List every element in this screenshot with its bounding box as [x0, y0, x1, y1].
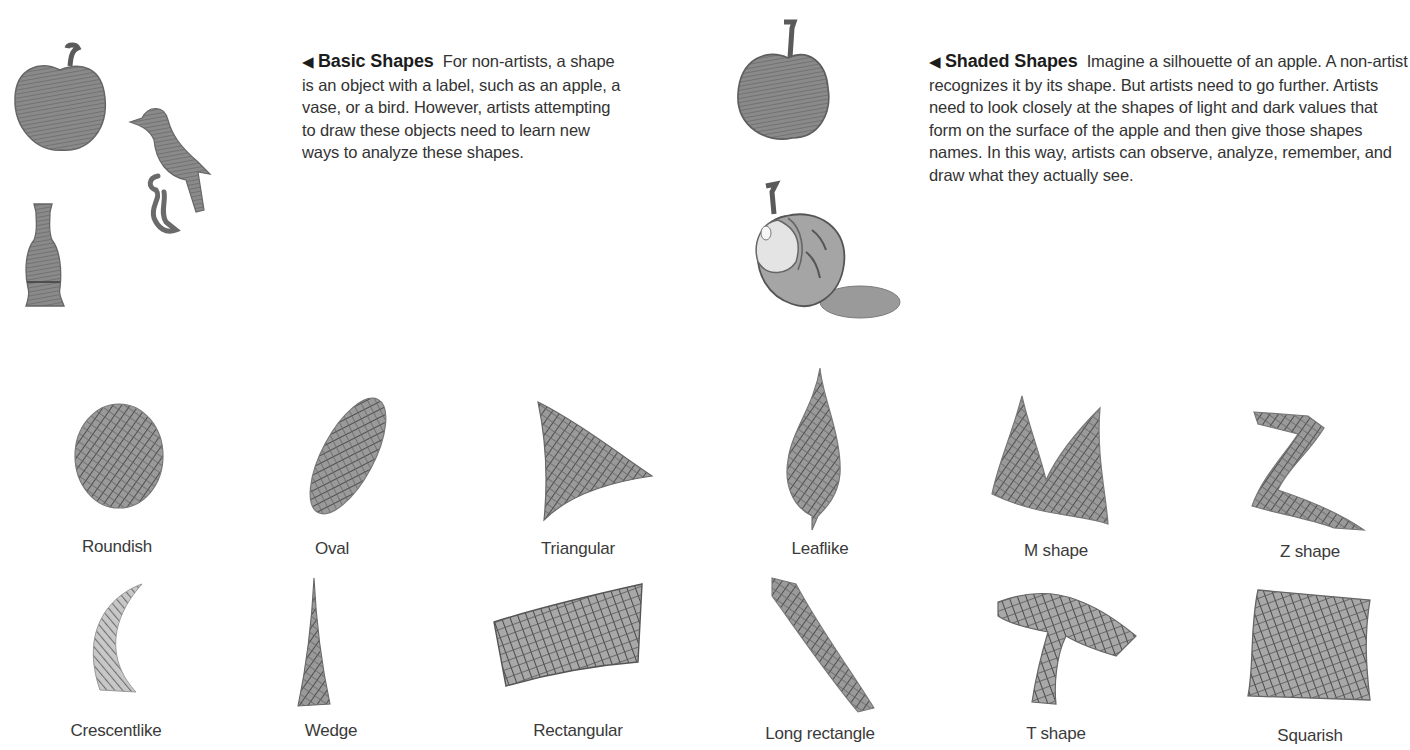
vase-drawing	[18, 200, 68, 310]
m-shape	[988, 394, 1116, 528]
shape-label-z-shape: Z shape	[1210, 542, 1410, 562]
z-shape	[1248, 408, 1368, 534]
shape-label-long-rectangle: Long rectangle	[720, 724, 920, 744]
shape-label-m-shape: M shape	[956, 541, 1156, 561]
shape-label-t-shape: T shape	[956, 724, 1156, 744]
long-rectangle-shape	[768, 576, 880, 714]
arrow-left-icon: ◀	[929, 53, 941, 70]
triangular-shape	[534, 400, 656, 524]
shape-label-wedge: Wedge	[231, 721, 431, 741]
shape-label-leaflike: Leaflike	[720, 539, 920, 559]
squarish-shape	[1244, 586, 1374, 704]
caption-body: Imagine a silhouette of an apple. A non-…	[929, 52, 1408, 184]
rectangular-shape	[488, 582, 648, 690]
bird-drawing	[128, 102, 218, 247]
shaded-apple-drawing	[748, 178, 903, 323]
shape-label-oval: Oval	[232, 539, 432, 559]
shape-label-crescentlike: Crescentlike	[16, 721, 216, 741]
crescentlike-shape	[78, 582, 148, 694]
apple-silhouette-drawing	[732, 18, 832, 143]
caption-title: Shaded Shapes	[945, 51, 1078, 71]
shape-label-triangular: Triangular	[478, 539, 678, 559]
oval-shape	[298, 394, 398, 518]
caption-title: Basic Shapes	[318, 51, 434, 71]
apple-drawing	[10, 42, 110, 154]
wedge-shape	[294, 578, 334, 710]
roundish-shape	[72, 402, 168, 514]
arrow-left-icon: ◀	[302, 53, 314, 70]
basic-shapes-caption: ◀Basic Shapes For non-artists, a shape i…	[302, 50, 627, 164]
shape-label-squarish: Squarish	[1210, 726, 1410, 746]
shape-label-roundish: Roundish	[17, 537, 217, 557]
shaded-shapes-caption: ◀Shaded Shapes Imagine a silhouette of a…	[929, 50, 1410, 187]
shape-label-rectangular: Rectangular	[478, 721, 678, 741]
t-shape	[996, 586, 1142, 708]
leaflike-shape	[782, 366, 846, 532]
